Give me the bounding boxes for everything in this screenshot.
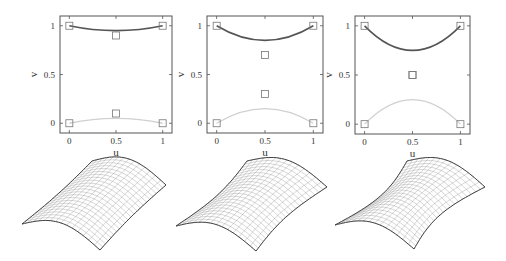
x-tick-label: 0.5 bbox=[110, 136, 122, 146]
top-boundary-curve bbox=[217, 26, 314, 41]
x-tick-label: 0.5 bbox=[259, 136, 271, 146]
x-tick-label: 0.5 bbox=[407, 137, 419, 147]
top-boundary-curve bbox=[365, 26, 461, 51]
x-axis-label: u bbox=[410, 147, 416, 159]
bottom-boundary-curve bbox=[217, 109, 314, 124]
x-axis-label: u bbox=[113, 146, 119, 158]
y-tick-label: 0.5 bbox=[191, 70, 203, 80]
bottom-boundary-curve bbox=[365, 100, 461, 125]
y-tick-label: 0.5 bbox=[44, 70, 56, 80]
chart-panel-2: 000.50.511uv bbox=[174, 16, 323, 158]
figure: 000.50.511uv000.50.511uv000.50.511uv bbox=[0, 0, 506, 261]
plot-frame bbox=[207, 16, 323, 133]
y-axis-label: v bbox=[27, 71, 39, 77]
x-tick-label: 1 bbox=[458, 137, 463, 147]
y-axis-label: v bbox=[322, 72, 334, 78]
bottom-boundary-curve bbox=[69, 118, 162, 123]
chart-panel-1: 000.50.511uv bbox=[27, 16, 172, 158]
x-tick-label: 0 bbox=[67, 136, 72, 146]
control-point-marker bbox=[113, 32, 120, 39]
control-point-marker bbox=[409, 72, 416, 79]
control-point-marker bbox=[409, 72, 416, 79]
plot-frame bbox=[60, 16, 172, 133]
y-tick-label: 0 bbox=[198, 118, 203, 128]
x-tick-label: 0 bbox=[362, 137, 367, 147]
control-point-marker bbox=[262, 91, 269, 98]
x-tick-label: 0 bbox=[214, 136, 219, 146]
y-tick-label: 0.5 bbox=[339, 70, 351, 80]
control-point-marker bbox=[262, 52, 269, 59]
surface-wireframe-1 bbox=[22, 157, 166, 250]
y-tick-label: 1 bbox=[198, 21, 203, 31]
y-tick-label: 0 bbox=[346, 119, 351, 129]
y-tick-label: 0 bbox=[51, 118, 56, 128]
y-tick-label: 1 bbox=[51, 21, 56, 31]
x-tick-label: 1 bbox=[311, 136, 316, 146]
x-tick-label: 1 bbox=[160, 136, 165, 146]
control-point-marker bbox=[113, 110, 120, 117]
y-tick-label: 1 bbox=[346, 21, 351, 31]
y-axis-label: v bbox=[174, 71, 186, 77]
surface-wireframe-2 bbox=[176, 158, 327, 252]
x-axis-label: u bbox=[262, 146, 268, 158]
top-boundary-curve bbox=[69, 26, 162, 31]
chart-panel-3: 000.50.511uv bbox=[322, 16, 470, 159]
surface-wireframe-3 bbox=[335, 158, 485, 250]
